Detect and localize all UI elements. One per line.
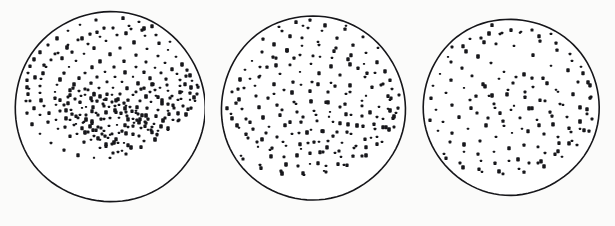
data-point bbox=[126, 115, 129, 118]
data-point bbox=[545, 81, 548, 85]
data-point bbox=[242, 158, 245, 161]
data-point bbox=[144, 94, 148, 99]
data-point bbox=[338, 150, 341, 153]
data-point bbox=[370, 85, 373, 88]
data-point bbox=[449, 78, 452, 81]
data-point bbox=[578, 119, 582, 124]
data-point bbox=[139, 100, 142, 103]
data-point bbox=[77, 39, 80, 42]
data-point bbox=[461, 165, 465, 169]
data-point bbox=[157, 55, 160, 58]
data-point bbox=[275, 103, 278, 106]
data-point bbox=[111, 101, 114, 104]
data-point bbox=[266, 96, 269, 99]
data-point bbox=[550, 65, 552, 67]
data-point bbox=[377, 47, 379, 49]
data-point bbox=[238, 77, 242, 81]
data-point bbox=[285, 145, 287, 147]
data-point bbox=[149, 91, 152, 94]
data-point bbox=[275, 57, 278, 60]
data-point bbox=[80, 126, 83, 130]
data-point bbox=[93, 92, 95, 94]
data-point bbox=[33, 75, 36, 79]
data-point bbox=[330, 82, 332, 84]
data-point bbox=[114, 76, 117, 78]
data-point bbox=[245, 118, 248, 121]
data-point bbox=[64, 116, 68, 120]
data-point bbox=[53, 96, 56, 99]
data-point bbox=[67, 30, 69, 32]
data-point bbox=[571, 140, 574, 142]
data-point bbox=[108, 125, 111, 127]
data-point bbox=[95, 99, 98, 102]
data-point bbox=[336, 131, 339, 134]
data-point bbox=[348, 62, 352, 66]
data-point bbox=[318, 150, 321, 154]
data-point bbox=[257, 105, 260, 109]
data-point bbox=[196, 93, 199, 96]
data-point bbox=[289, 64, 292, 67]
data-point bbox=[109, 134, 111, 136]
data-point bbox=[72, 82, 75, 86]
data-point bbox=[325, 165, 328, 167]
data-point bbox=[296, 111, 299, 114]
data-point bbox=[334, 152, 337, 154]
data-point bbox=[493, 103, 496, 106]
data-point bbox=[281, 30, 284, 33]
data-point bbox=[494, 107, 497, 109]
data-point bbox=[142, 86, 145, 89]
data-point bbox=[374, 128, 377, 131]
data-point bbox=[327, 140, 330, 143]
data-point bbox=[353, 147, 356, 150]
data-point bbox=[42, 63, 45, 66]
data-point bbox=[247, 137, 250, 140]
data-point bbox=[130, 109, 133, 113]
data-point bbox=[437, 130, 439, 132]
data-point bbox=[135, 91, 138, 94]
data-point bbox=[68, 93, 71, 97]
data-point bbox=[26, 92, 29, 96]
data-point bbox=[467, 128, 469, 130]
data-point bbox=[382, 118, 385, 120]
data-point bbox=[298, 132, 301, 135]
data-point bbox=[317, 71, 320, 75]
data-point bbox=[490, 93, 494, 97]
data-point bbox=[305, 130, 309, 135]
data-point bbox=[272, 42, 275, 46]
data-point bbox=[59, 110, 62, 113]
data-point bbox=[183, 82, 186, 86]
data-point bbox=[39, 92, 42, 94]
data-point bbox=[188, 91, 191, 94]
data-point bbox=[60, 56, 63, 60]
data-point bbox=[350, 114, 353, 116]
data-point bbox=[429, 96, 432, 100]
data-point bbox=[355, 123, 359, 128]
data-point bbox=[498, 111, 501, 115]
data-point bbox=[301, 171, 304, 175]
data-point bbox=[550, 33, 553, 35]
data-point bbox=[189, 99, 191, 101]
data-point bbox=[122, 101, 125, 104]
data-point bbox=[108, 106, 110, 108]
data-point bbox=[428, 118, 431, 122]
data-point bbox=[365, 95, 367, 97]
data-point bbox=[88, 124, 92, 128]
data-point bbox=[29, 100, 32, 103]
data-point bbox=[166, 102, 169, 105]
data-point bbox=[432, 85, 434, 87]
data-point bbox=[119, 111, 122, 114]
data-point bbox=[283, 123, 286, 127]
data-point bbox=[126, 98, 129, 101]
data-point bbox=[28, 64, 31, 68]
data-point bbox=[123, 70, 127, 74]
data-point bbox=[544, 100, 547, 103]
data-point bbox=[25, 78, 28, 82]
data-point bbox=[135, 110, 137, 112]
data-point bbox=[555, 48, 558, 51]
data-point bbox=[339, 106, 342, 109]
data-point bbox=[143, 124, 146, 128]
data-point bbox=[167, 90, 169, 92]
data-point bbox=[555, 89, 557, 91]
data-point bbox=[114, 105, 117, 107]
data-point bbox=[283, 156, 286, 159]
